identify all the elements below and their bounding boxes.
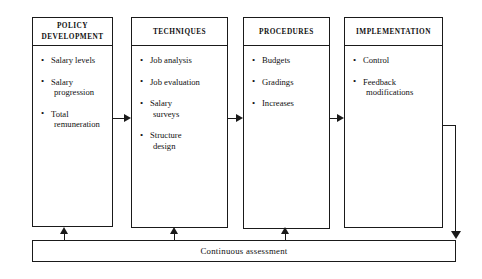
stage-body-procedures: Budgets Gradings Increases bbox=[244, 46, 329, 124]
list-item: Total remuneration bbox=[40, 109, 108, 130]
list-item-text: remuneration bbox=[51, 119, 108, 130]
list-item-text: Salary levels bbox=[51, 55, 95, 65]
list-item-text: Budgets bbox=[262, 55, 290, 65]
stage-header-techniques: TECHNIQUES bbox=[132, 18, 227, 46]
stage-header-line: TECHNIQUES bbox=[153, 27, 206, 37]
continuous-assessment-label: Continuous assessment bbox=[200, 246, 287, 256]
stage-header-implementation: IMPLEMENTATION bbox=[345, 18, 442, 46]
list-item: Budgets bbox=[251, 55, 325, 66]
feedback-loop-vertical-segment bbox=[455, 125, 456, 233]
list-item-text: Job evaluation bbox=[150, 77, 200, 87]
arrow-up-icon bbox=[170, 227, 178, 234]
list-item: Structure design bbox=[139, 130, 223, 151]
list-item-text: Feedback bbox=[363, 77, 396, 87]
stage-header-procedures: PROCEDURES bbox=[244, 18, 329, 46]
arrow-up-icon bbox=[60, 227, 68, 234]
arrow-right-icon bbox=[337, 114, 344, 122]
stage-body-policy-development: Salary levels Salary progression Total r… bbox=[33, 46, 112, 145]
stage-header-line: IMPLEMENTATION bbox=[356, 27, 431, 37]
list-item-text: Salary bbox=[51, 77, 73, 87]
list-item-text: Salary bbox=[150, 98, 172, 108]
stage-header-line: DEVELOPMENT bbox=[41, 32, 103, 41]
stage-body-implementation: Control Feedback modifications bbox=[345, 46, 442, 113]
list-item: Control bbox=[352, 55, 438, 66]
list-item-text: Gradings bbox=[262, 77, 294, 87]
continuous-assessment-bar[interactable]: Continuous assessment bbox=[32, 240, 456, 262]
arrow-down-icon bbox=[451, 231, 461, 239]
list-item-text: Job analysis bbox=[150, 55, 192, 65]
list-item-text: progression bbox=[51, 87, 108, 98]
stage-box-techniques[interactable]: TECHNIQUES Job analysis Job evaluation S… bbox=[131, 17, 228, 228]
diagram-canvas: POLICY DEVELOPMENT Salary levels Salary … bbox=[0, 0, 482, 279]
list-item-text: surveys bbox=[150, 109, 223, 120]
arrow-right-icon bbox=[124, 114, 131, 122]
stage-header-line: PROCEDURES bbox=[259, 27, 314, 37]
list-item: Feedback modifications bbox=[352, 77, 438, 98]
stage-box-implementation[interactable]: IMPLEMENTATION Control Feedback modifica… bbox=[344, 17, 443, 228]
stage-header-line: POLICY bbox=[57, 21, 88, 30]
list-item-text: Total bbox=[51, 109, 69, 119]
list-item: Gradings bbox=[251, 77, 325, 88]
arrow-up-icon bbox=[281, 227, 289, 234]
stage-box-procedures[interactable]: PROCEDURES Budgets Gradings Increases bbox=[243, 17, 330, 229]
list-item-text: modifications bbox=[363, 87, 438, 98]
arrow-right-icon bbox=[236, 114, 243, 122]
stage-body-techniques: Job analysis Job evaluation Salary surve… bbox=[132, 46, 227, 167]
list-item: Increases bbox=[251, 98, 325, 109]
list-item-text: Increases bbox=[262, 98, 294, 108]
stage-box-policy-development[interactable]: POLICY DEVELOPMENT Salary levels Salary … bbox=[32, 17, 113, 227]
stage-header-policy-development: POLICY DEVELOPMENT bbox=[33, 18, 112, 46]
list-item-text: Structure bbox=[150, 130, 182, 140]
list-item: Salary surveys bbox=[139, 98, 223, 119]
list-item-text: design bbox=[150, 141, 223, 152]
list-item: Job evaluation bbox=[139, 77, 223, 88]
list-item-text: Control bbox=[363, 55, 389, 65]
list-item: Salary progression bbox=[40, 77, 108, 98]
list-item: Job analysis bbox=[139, 55, 223, 66]
list-item: Salary levels bbox=[40, 55, 108, 66]
